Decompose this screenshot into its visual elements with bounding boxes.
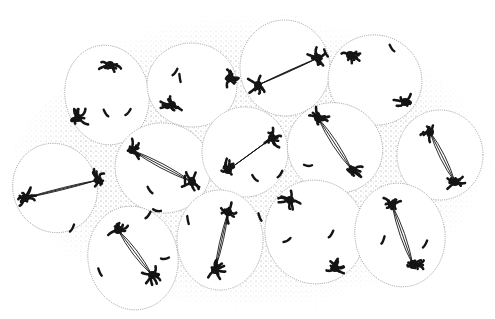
chromosome-fragment bbox=[179, 74, 180, 82]
chromosome-fragment bbox=[304, 165, 312, 166]
mitosis-illustration bbox=[0, 0, 495, 319]
cell bbox=[202, 107, 288, 197]
cell bbox=[177, 190, 263, 290]
cell-membrane bbox=[202, 107, 288, 197]
chromosome-fragment bbox=[187, 216, 189, 224]
